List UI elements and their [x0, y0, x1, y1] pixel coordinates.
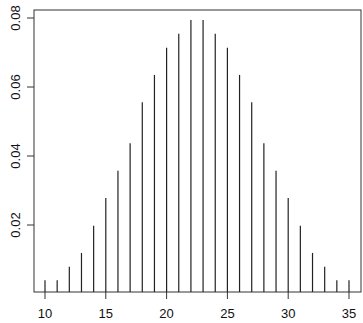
- bars: [45, 20, 349, 292]
- chart: 101520253035 0.020.040.060.08: [0, 0, 363, 323]
- x-tick-label: 35: [342, 306, 356, 321]
- y-tick-label: 0.08: [8, 5, 23, 30]
- x-tick-label: 30: [281, 306, 295, 321]
- y-tick-label: 0.06: [8, 74, 23, 99]
- x-tick-label: 25: [220, 306, 234, 321]
- y-tick-label: 0.04: [8, 143, 23, 168]
- x-tick-label: 10: [38, 306, 52, 321]
- y-axis: 0.020.040.060.08: [8, 5, 34, 237]
- x-axis: 101520253035: [38, 292, 356, 321]
- plot-box: [34, 10, 361, 292]
- y-tick-label: 0.02: [8, 212, 23, 237]
- x-tick-label: 15: [99, 306, 113, 321]
- x-tick-label: 20: [159, 306, 173, 321]
